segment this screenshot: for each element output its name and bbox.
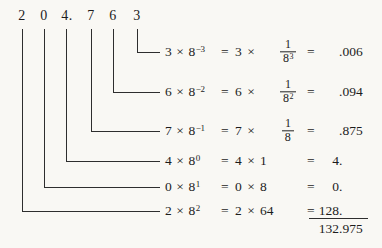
- fraction: 1 82: [273, 78, 303, 105]
- digit-value: 4: [165, 153, 172, 168]
- expansion-product: 0 × 8: [235, 177, 267, 197]
- multiplier: 3 ×: [235, 42, 255, 62]
- octal-digit-3: 3: [125, 8, 149, 24]
- fraction-numerator: 1: [285, 38, 291, 51]
- place-value-term: 0×81: [165, 177, 200, 198]
- exponent: 0: [196, 153, 200, 163]
- addition-sum-line: [309, 218, 368, 219]
- fraction: 1 83: [273, 38, 303, 65]
- multiply-sign: ×: [176, 179, 184, 194]
- place-value-term: 2×82: [165, 201, 200, 222]
- connector-vertical-digit-6: [113, 29, 114, 93]
- equation-row-8-power-neg2: 6×8−2 = 6 × 1 82 = .094: [165, 82, 382, 102]
- total-fraction: .975: [339, 221, 363, 237]
- place-value-term: 6×8−2: [165, 82, 205, 103]
- octal-digit-6: 6: [101, 8, 125, 24]
- fraction: 1 8: [273, 117, 303, 144]
- exponent: −2: [196, 84, 205, 94]
- connector-horizontal-digit-3: [137, 52, 160, 53]
- total-row: 132 .975: [165, 221, 382, 237]
- connector-vertical-digit-7: [91, 29, 92, 132]
- octal-digit-2: 2: [10, 8, 34, 24]
- equals-sign: =: [221, 177, 229, 197]
- multiplier: 7 ×: [235, 121, 255, 141]
- result-fraction: .: [339, 151, 342, 171]
- connector-horizontal-digit-0: [44, 187, 160, 188]
- connector-vertical-digit-0: [44, 29, 45, 188]
- digit-value: 2: [165, 203, 172, 218]
- result-fraction: .: [339, 177, 342, 197]
- equals-sign: =: [221, 121, 229, 141]
- connector-horizontal-digit-4: [66, 161, 160, 162]
- result-fraction: .875: [339, 121, 363, 141]
- base: 8: [188, 44, 195, 59]
- exponent: −1: [196, 123, 205, 133]
- equals-sign: =: [221, 42, 229, 62]
- octal-digit-4-point: 4.: [55, 8, 79, 24]
- digit-value: 0: [165, 179, 172, 194]
- digit-value: 3: [165, 44, 172, 59]
- equation-row-8-power-neg3: 3×8−3 = 3 × 1 83 = .006: [165, 42, 382, 62]
- result-integer: 0: [309, 177, 339, 197]
- fraction-denominator: 82: [280, 92, 296, 106]
- fraction-denominator: 83: [280, 52, 296, 66]
- digit-value: 7: [165, 123, 172, 138]
- result-fraction: .006: [339, 42, 363, 62]
- denominator-exponent: 2: [289, 93, 293, 102]
- fraction-numerator: 1: [285, 117, 291, 130]
- fraction-denominator: 8: [282, 131, 295, 145]
- place-value-term: 3×8−3: [165, 42, 205, 63]
- connector-vertical-digit-2: [22, 29, 23, 212]
- place-value-term: 7×8−1: [165, 121, 205, 142]
- equation-row-8-power-neg1: 7×8−1 = 7 × 1 8 = .875: [165, 121, 382, 141]
- base: 8: [188, 84, 195, 99]
- multiply-sign: ×: [176, 123, 184, 138]
- result-fraction: .094: [339, 82, 363, 102]
- place-value-term: 4×80: [165, 151, 200, 172]
- connector-vertical-digit-4: [66, 29, 67, 162]
- connector-horizontal-digit-2: [22, 211, 160, 212]
- fraction-numerator: 1: [285, 78, 291, 91]
- denominator-exponent: 3: [289, 53, 293, 62]
- multiply-sign: ×: [176, 44, 184, 59]
- base: 8: [188, 153, 195, 168]
- octal-to-decimal-conversion-figure: 2 0 4. 7 6 3 3×8−3 = 3 × 1 83 = .006 6×8…: [0, 0, 382, 248]
- exponent: 2: [196, 203, 200, 213]
- equation-row-8-power-1: 0×81 = 0 × 8 = 0 .: [165, 177, 382, 197]
- equals-sign: =: [307, 121, 315, 141]
- equals-sign: =: [307, 42, 315, 62]
- exponent: 1: [196, 179, 200, 189]
- base: 8: [188, 179, 195, 194]
- equals-sign: =: [221, 82, 229, 102]
- connector-horizontal-digit-7: [91, 131, 160, 132]
- connector-vertical-digit-3: [137, 29, 138, 53]
- total-integer: 132: [309, 221, 339, 237]
- digit-value: 6: [165, 84, 172, 99]
- multiply-sign: ×: [176, 84, 184, 99]
- equals-sign: =: [307, 82, 315, 102]
- exponent: −3: [196, 44, 205, 54]
- equals-sign: =: [221, 201, 229, 221]
- octal-digit-7: 7: [79, 8, 103, 24]
- expansion-product: 2 × 64: [235, 201, 274, 221]
- base: 8: [188, 203, 195, 218]
- multiply-sign: ×: [176, 153, 184, 168]
- result-integer: 4: [309, 151, 339, 171]
- base: 8: [188, 123, 195, 138]
- multiply-sign: ×: [176, 203, 184, 218]
- octal-digit-0: 0: [32, 8, 56, 24]
- equals-sign: =: [221, 151, 229, 171]
- equation-row-8-power-0: 4×80 = 4 × 1 = 4 .: [165, 151, 382, 171]
- expansion-product: 4 × 1: [235, 151, 267, 171]
- connector-horizontal-digit-6: [113, 92, 160, 93]
- multiplier: 6 ×: [235, 82, 255, 102]
